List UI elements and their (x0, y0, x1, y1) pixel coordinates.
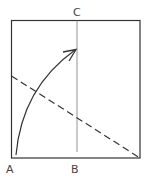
label-c: C (73, 6, 81, 19)
fold-diagram: C A B (0, 0, 147, 179)
paper-square (12, 21, 141, 159)
curved-arrow-icon (16, 50, 75, 155)
label-a: A (6, 163, 14, 176)
label-b: B (71, 163, 79, 176)
dashed-fold-line (12, 76, 141, 158)
